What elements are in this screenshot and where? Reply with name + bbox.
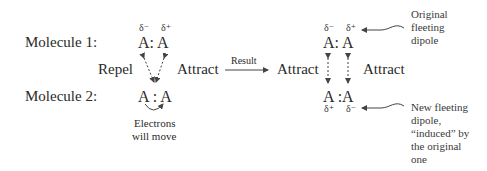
left-crossing-dashed-arrows [144,58,164,82]
induced-dipole-callout-arrow [362,104,404,108]
original-dipole-callout-arrow [362,26,404,30]
arrows-layer [0,0,487,171]
right-vertical-dashed-arrows [328,58,348,83]
electron-movement-arrow [145,104,163,110]
